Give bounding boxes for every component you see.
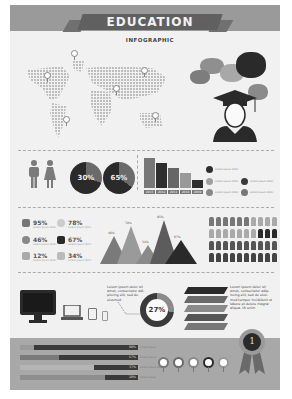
stat-subtext: Lorem ipsum dolor (33, 226, 56, 229)
book-icon (22, 219, 30, 227)
progress-label: Lorem ipsum (140, 346, 156, 349)
monitor-icon (20, 290, 56, 324)
bar-2012 (156, 163, 167, 188)
legend-text: Lorem ipsum dolor (250, 180, 273, 183)
progress-bar: 67% (20, 355, 138, 360)
laptop-icon (61, 305, 83, 320)
person-icon (223, 241, 228, 250)
ring-marker-icon (158, 357, 169, 368)
ring-marker-icon (188, 357, 199, 368)
person-icon (258, 253, 263, 262)
person-icon (216, 217, 221, 226)
progress-value: 28% (129, 375, 136, 380)
section-divider (18, 207, 274, 208)
map-pin-icon (44, 72, 51, 79)
bar-year-label: 2010 (180, 190, 191, 194)
mountain-label: 34% (142, 240, 149, 244)
bar-2009 (192, 180, 203, 188)
person-icon (216, 253, 221, 262)
stat-value: 67% (68, 236, 82, 243)
donut-label: 27% (146, 299, 168, 321)
stat-value: 46% (33, 236, 47, 243)
stat-subtext: Lorem ipsum dolor (33, 243, 56, 246)
world-map-icon (22, 58, 172, 143)
bar-chart-axis (137, 155, 138, 190)
stat-value: 95% (33, 219, 47, 226)
bulb-icon (57, 219, 65, 227)
person-icon (251, 217, 256, 226)
person-icon (237, 229, 242, 238)
person-icon (272, 253, 277, 262)
book-icon (184, 323, 228, 330)
books-note: Lorem ipsum dolor sit amet, consectetur … (230, 285, 275, 310)
progress-bar: 37% (20, 365, 138, 370)
legend-text: Lorem ipsum dolor (215, 180, 238, 183)
legend-dot (206, 166, 213, 173)
page-title: EDUCATION (80, 14, 220, 30)
trophy-icon (57, 252, 65, 260)
bar-2010 (180, 173, 191, 188)
progress-label: Lorem ipsum (140, 376, 156, 379)
person-icon (258, 229, 263, 238)
person-icon (230, 229, 235, 238)
person-icon (244, 253, 249, 262)
person-icon (244, 229, 249, 238)
progress-bar: 28% (20, 375, 138, 380)
bar-year-label: 2009 (192, 190, 203, 194)
bar-year-label: 2015 (144, 190, 155, 194)
legend-text: Lorem ipsum dolor (250, 191, 273, 194)
book-icon (184, 305, 228, 312)
legend-dot (206, 178, 213, 185)
book-icon (184, 296, 228, 303)
map-pin-icon (63, 116, 70, 123)
globe-icon (22, 236, 30, 244)
person-icon (244, 241, 249, 250)
person-icon (237, 217, 242, 226)
map-pin-icon (71, 50, 78, 57)
person-icon (265, 253, 270, 262)
section-divider (18, 150, 274, 151)
stat-value: 12% (33, 252, 47, 259)
book-icon (184, 287, 228, 294)
page-subtitle: INFOGRAPHIC (80, 37, 220, 43)
bar-year-label: 2011 (168, 190, 179, 194)
person-icon (272, 217, 277, 226)
graduate-cap-icon (205, 90, 265, 142)
person-icon (230, 241, 235, 250)
donut-chart: 27% (140, 293, 174, 327)
legend-dot (206, 189, 213, 196)
person-icon (251, 253, 256, 262)
ring-marker-icon (218, 357, 229, 368)
progress-label: Lorem ipsum (140, 356, 156, 359)
stat-value: 78% (68, 219, 82, 226)
person-icon (258, 241, 263, 250)
legend-dot (241, 178, 248, 185)
person-icon (230, 217, 235, 226)
badge-label: 1 (235, 336, 269, 346)
person-icon (272, 229, 277, 238)
tablet-icon (88, 308, 97, 320)
map-pin-icon (113, 85, 120, 92)
speech-bubble-icon (236, 52, 266, 78)
legend-text: Lorem ipsum dolor (215, 191, 238, 194)
person-icon (265, 217, 270, 226)
female-icon (44, 160, 56, 188)
person-icon (223, 253, 228, 262)
person-icon (209, 253, 214, 262)
person-icon (230, 253, 235, 262)
chess-icon (57, 236, 65, 244)
person-icon (216, 229, 221, 238)
person-icon (244, 217, 249, 226)
progress-value: 67% (129, 355, 136, 360)
person-icon (258, 217, 263, 226)
person-icon (237, 241, 242, 250)
speech-bubble-icon (190, 70, 210, 84)
section-divider (18, 272, 274, 273)
person-icon (251, 241, 256, 250)
mountain-label: 67% (174, 235, 181, 239)
person-icon (216, 241, 221, 250)
progress-bar: 88% (20, 345, 138, 350)
person-icon (223, 229, 228, 238)
person-icon (265, 241, 270, 250)
person-icon (209, 229, 214, 238)
